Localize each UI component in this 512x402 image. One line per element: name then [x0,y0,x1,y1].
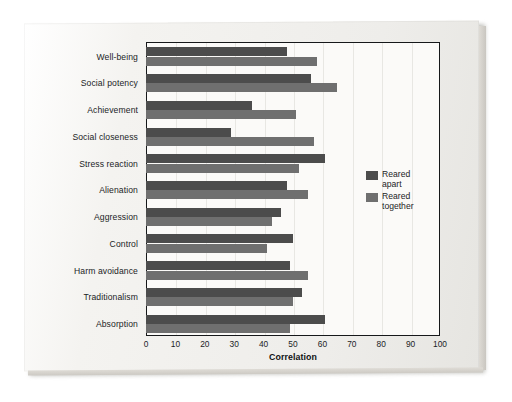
category-label: Alienation [99,185,138,195]
bar-reared-together [146,217,272,226]
bar-reared-apart [146,234,293,243]
bar-reared-together [146,297,293,306]
x-tick-label: 90 [406,339,415,349]
bar-reared-apart [146,74,311,83]
bar-reared-apart [146,47,287,56]
x-tick-label: 0 [144,339,149,349]
bar-reared-apart [146,288,302,297]
bar-chart: Well-beingSocial potencyAchievementSocia… [0,0,512,402]
x-tick-label: 80 [377,339,386,349]
bar-group [146,42,440,69]
bar-reared-together [146,271,308,280]
x-tick-label: 100 [433,339,447,349]
bar-reared-together [146,244,267,253]
category-axis-labels: Well-beingSocial potencyAchievementSocia… [0,42,142,336]
category-label: Achievement [87,105,138,115]
category-label: Stress reaction [79,159,138,169]
legend-label: Reared together [382,192,414,211]
bar-reared-apart [146,261,290,270]
x-axis-title: Correlation [146,352,440,362]
bar-reared-apart [146,181,287,190]
category-label: Well-being [97,52,138,62]
legend-item: Reared apart [366,170,442,189]
category-label: Social potency [81,78,138,88]
bar-reared-together [146,190,308,199]
x-tick-label: 60 [318,339,327,349]
bar-group [146,95,440,122]
bar-reared-apart [146,128,231,137]
category-label: Social closeness [72,132,138,142]
bar-reared-together [146,110,296,119]
x-tick-label: 10 [171,339,180,349]
bar-reared-apart [146,208,281,217]
bar-group [146,69,440,96]
legend-swatch [366,171,378,180]
x-tick-label: 20 [200,339,209,349]
bar-reared-together [146,83,337,92]
bar-reared-apart [146,315,325,324]
bar-group [146,309,440,336]
chart-legend: Reared apartReared together [366,170,442,214]
bar-reared-together [146,137,314,146]
legend-label: Reared apart [382,170,410,189]
category-label: Control [110,239,138,249]
x-tick-label: 50 [288,339,297,349]
category-label: Aggression [94,212,138,222]
bar-group [146,229,440,256]
x-tick-label: 30 [230,339,239,349]
category-label: Traditionalism [83,292,138,302]
bar-reared-apart [146,154,325,163]
bar-reared-together [146,57,317,66]
x-tick-label: 70 [347,339,356,349]
bar-group [146,283,440,310]
x-tick-label: 40 [259,339,268,349]
legend-swatch [366,193,378,202]
bar-group [146,122,440,149]
bar-group [146,256,440,283]
category-label: Harm avoidance [74,266,138,276]
legend-item: Reared together [366,192,442,211]
category-label: Absorption [96,319,138,329]
bar-reared-together [146,324,290,333]
bar-reared-apart [146,101,252,110]
page-root: Well-beingSocial potencyAchievementSocia… [0,0,512,402]
bar-reared-together [146,164,299,173]
